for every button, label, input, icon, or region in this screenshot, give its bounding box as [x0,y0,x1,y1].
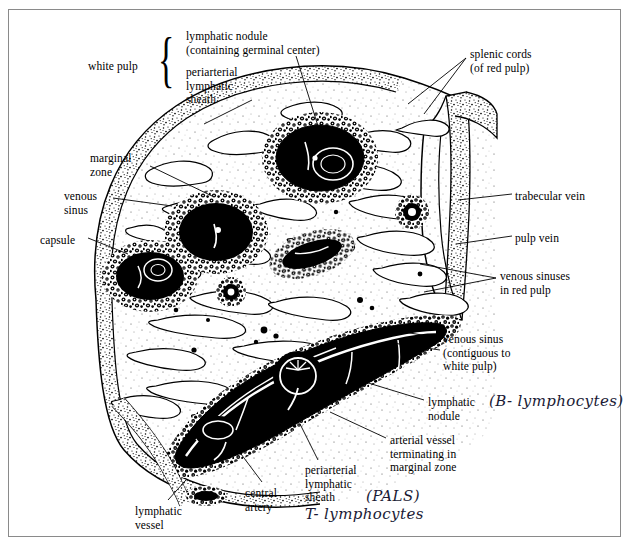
figure-page: { white pulp lymphatic nodule (containin… [0,0,631,554]
lymphatic-nodule-lower-left [102,240,198,312]
label-splenic-cords: splenic cords (of red pulp) [470,48,532,75]
label-periarterial-lymphatic-sheath-lower: periarterial lymphatic sheath [305,464,357,505]
label-arterial-vessel: arterial vessel terminating in marginal … [390,434,457,475]
label-venous-sinus-contiguous: venous sinus (contiguous to white pulp) [443,333,511,374]
label-lymphatic-vessel: lymphatic vessel [135,505,182,532]
label-central-artery: central artery [245,487,277,514]
annotation-pals: (PALS) [366,487,420,505]
label-trabecular-vein: trabecular vein [515,190,585,204]
label-white-pulp: white pulp [88,60,138,74]
annotation-t-lymphocytes: T- lymphocytes [305,505,424,523]
white-pulp-brace: { [158,28,174,90]
annotation-b-lymphocytes: (B- lymphocytes) [489,392,624,410]
label-venous-sinuses-red-pulp: venous sinuses in red pulp [500,270,570,297]
label-venous-sinus: venous sinus [64,190,97,217]
label-lymphatic-nodule-lower: lymphatic nodule [428,396,475,423]
label-marginal-zone: marginal zone [90,152,131,179]
label-periarterial-lymphatic-sheath-top: periarterial lymphatic sheath [186,66,238,107]
label-capsule: capsule [40,234,75,248]
lymphatic-nodule-upper-center [262,112,378,204]
label-lymphatic-nodule-top: lymphatic nodule (containing germinal ce… [186,30,320,57]
label-pulp-vein: pulp vein [515,232,559,246]
